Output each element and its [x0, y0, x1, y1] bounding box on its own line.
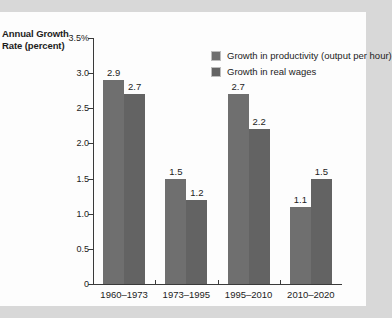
bar-value-label: 2.2: [242, 116, 277, 127]
x-axis-label: 2010–2020: [271, 289, 351, 300]
x-axis-separator-tick: [155, 280, 156, 284]
y-axis-tick-labels: 3.5%3.02.52.01.51.00.50: [0, 38, 89, 284]
bar-group: 2.92.7: [103, 38, 145, 284]
bar-value-label: 1.5: [158, 166, 193, 177]
bar: [311, 179, 332, 284]
bar: [290, 207, 311, 284]
legend-item-real-wages: Growth in real wages: [211, 66, 392, 77]
x-axis-separator-tick: [218, 280, 219, 284]
y-axis-tick-0: [88, 38, 93, 39]
y-axis-line: [93, 38, 94, 284]
bar: [186, 200, 207, 284]
bar-group: 1.51.2: [165, 38, 207, 284]
bar: [103, 80, 124, 284]
bar-value-label: 2.7: [221, 81, 256, 92]
legend-label-productivity: Growth in productivity (output per hour): [227, 50, 392, 61]
chart-panel: Annual Growth Rate (percent) 3.5%3.02.52…: [0, 12, 366, 306]
y-axis-tick-7: [88, 284, 93, 285]
bar-value-label: 2.9: [96, 67, 131, 78]
bar: [249, 129, 270, 284]
y-axis-tick-4: [88, 179, 93, 180]
y-axis-tick-6: [88, 249, 93, 250]
bar: [124, 94, 145, 284]
x-axis-line: [93, 284, 342, 285]
y-axis-tick-label-0: 3.5%: [68, 33, 89, 43]
y-axis-tick-3: [88, 143, 93, 144]
plot-area: 2.92.71.51.22.72.21.11.5 1960–19731973–1…: [93, 38, 342, 284]
y-axis-tick-5: [88, 214, 93, 215]
legend-item-productivity: Growth in productivity (output per hour): [211, 50, 392, 61]
bar-value-label: 1.2: [179, 187, 214, 198]
y-axis-tick-1: [88, 73, 93, 74]
x-axis-separator-tick: [280, 280, 281, 284]
chart-legend: Growth in productivity (output per hour)…: [211, 50, 392, 82]
y-axis-tick-2: [88, 108, 93, 109]
bar-value-label: 1.5: [304, 166, 339, 177]
bar-value-label: 2.7: [117, 81, 152, 92]
legend-swatch-icon-productivity: [211, 51, 221, 61]
legend-swatch-icon-real-wages: [211, 67, 221, 77]
legend-label-real-wages: Growth in real wages: [227, 66, 316, 77]
